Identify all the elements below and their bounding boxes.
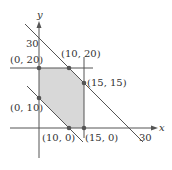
y-axis-arrow-icon	[37, 21, 42, 28]
feasible-region	[39, 68, 84, 128]
vertex-label-10-20: (10, 20)	[61, 48, 101, 59]
vertex-0-10	[37, 96, 42, 101]
vertex-label-15-0: (15, 0)	[85, 132, 118, 143]
vertex-15-0	[82, 126, 87, 131]
vertex-label-0-10: (0, 10)	[10, 102, 43, 113]
vertex-10-20	[67, 66, 72, 71]
feasible-region-diagram: y x 30 30 (0, 20) (10, 20) (15, 15) (0, …	[0, 0, 172, 170]
vertex-label-0-20: (0, 20)	[10, 54, 43, 65]
y-axis-label: y	[36, 9, 43, 20]
vertex-label-15-15: (15, 15)	[87, 77, 127, 88]
x-axis-arrow-icon	[151, 126, 158, 131]
vertex-15-15	[82, 81, 87, 86]
x-tick-30: 30	[139, 132, 152, 143]
x-axis-label: x	[159, 122, 165, 133]
vertex-10-0	[67, 126, 72, 131]
y-tick-30: 30	[26, 38, 39, 49]
vertex-label-10-0: (10, 0)	[42, 132, 75, 143]
vertex-0-20	[37, 66, 42, 71]
